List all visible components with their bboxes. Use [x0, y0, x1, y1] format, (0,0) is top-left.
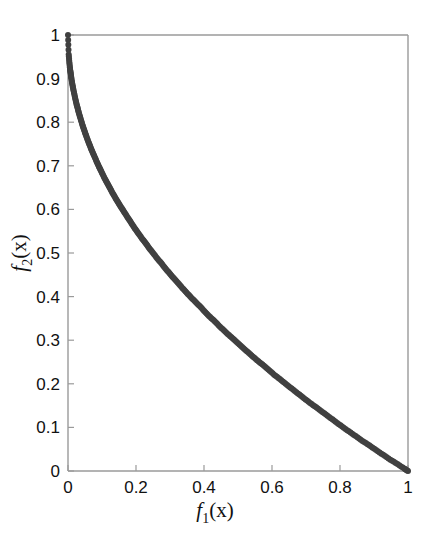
figure-container: 00.20.40.60.81 00.10.20.30.40.50.60.70.8… [0, 0, 431, 542]
x-tick-label: 0.2 [124, 478, 148, 497]
y-axis-title-argument: (x) [7, 234, 31, 259]
svg-text:f2(x): f2(x) [7, 234, 35, 271]
x-tick-label: 0.6 [260, 478, 284, 497]
x-tick-label: 0 [63, 478, 72, 497]
y-tick-label: 0.2 [36, 375, 60, 394]
y-tick-label: 0.1 [36, 418, 60, 437]
y-tick-label: 0.6 [36, 200, 60, 219]
y-tick-label: 0 [51, 462, 60, 481]
x-tick-label: 0.4 [192, 478, 216, 497]
y-tick-label: 1 [51, 26, 60, 45]
y-tick-label: 0.5 [36, 244, 60, 263]
y-tick-label: 0.4 [36, 288, 60, 307]
x-axis-title-argument: (x) [209, 498, 234, 522]
y-tick-label: 0.7 [36, 157, 60, 176]
data-point [405, 468, 411, 474]
svg-text:f1(x): f1(x) [196, 498, 233, 526]
x-tick-label: 0.8 [328, 478, 352, 497]
y-tick-label: 0.3 [36, 331, 60, 350]
figure-background [0, 0, 431, 542]
pareto-front-scatter-plot: 00.20.40.60.81 00.10.20.30.40.50.60.70.8… [0, 0, 431, 542]
x-axis-title: f1(x) [196, 498, 233, 526]
y-axis-title-subscript: 2 [20, 259, 35, 266]
x-tick-label: 1 [403, 478, 412, 497]
x-axis-title-subscript: 1 [202, 511, 209, 526]
y-axis-title: f2(x) [7, 234, 35, 271]
y-tick-label: 0.9 [36, 70, 60, 89]
y-tick-label: 0.8 [36, 113, 60, 132]
